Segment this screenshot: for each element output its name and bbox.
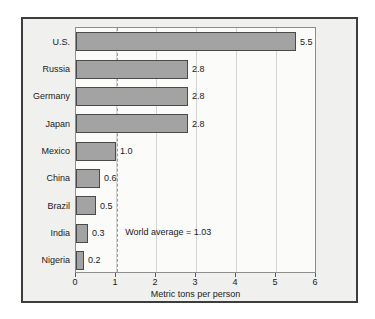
x-tick-label-1: 1 [112,278,117,287]
category-label: Russia [42,65,70,74]
bar[interactable] [76,87,188,106]
x-tick-label-3: 3 [192,278,197,287]
bar-row: Russia2.8 [76,60,315,79]
bar[interactable] [76,32,296,51]
bar-value-label: 0.3 [92,229,105,238]
plot-area: U.S.5.5Russia2.8Germany2.8Japan2.8Mexico… [75,27,316,273]
x-tick-label-5: 5 [272,278,277,287]
bar[interactable] [76,142,116,161]
world-average-annotation: World average = 1.03 [125,228,211,237]
bar[interactable] [76,251,84,270]
bar-row: Nigeria0.2 [76,251,315,270]
category-label: India [50,229,70,238]
category-label: Germany [33,92,70,101]
bar-row: Germany2.8 [76,87,315,106]
bar[interactable] [76,114,188,133]
bar-value-label: 0.5 [100,201,113,210]
x-tick-label-4: 4 [232,278,237,287]
bar[interactable] [76,196,96,215]
bar-row: U.S.5.5 [76,32,315,51]
bar-value-label: 0.2 [88,256,101,265]
bar-value-label: 2.8 [192,119,205,128]
bar-row: Brazil0.5 [76,196,315,215]
category-label: U.S. [52,37,70,46]
bar[interactable] [76,224,88,243]
x-tick-label-6: 6 [312,278,317,287]
category-label: Brazil [47,201,70,210]
bar[interactable] [76,169,100,188]
bar-row: Japan2.8 [76,114,315,133]
bar[interactable] [76,60,188,79]
bar-row: Mexico1.0 [76,142,315,161]
x-axis-label: Metric tons per person [75,290,316,299]
x-tick-label-0: 0 [72,278,77,287]
bar-value-label: 5.5 [300,37,313,46]
bar-value-label: 2.8 [192,65,205,74]
bar-value-label: 0.6 [104,174,117,183]
bar-row: China0.6 [76,169,315,188]
category-label: Japan [45,119,70,128]
x-tick-label-2: 2 [152,278,157,287]
bar-value-label: 2.8 [192,92,205,101]
category-label: Nigeria [41,256,70,265]
category-label: Mexico [41,147,70,156]
bar-value-label: 1.0 [120,147,133,156]
category-label: China [46,174,70,183]
chart-figure: U.S.5.5Russia2.8Germany2.8Japan2.8Mexico… [21,17,358,303]
